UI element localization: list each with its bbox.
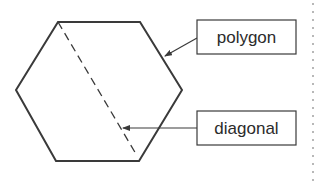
polygon-diagram: polygon diagonal: [0, 0, 315, 186]
polygon-label: polygon: [217, 28, 277, 47]
diagonal-callout: diagonal: [123, 111, 296, 145]
diagonal-label: diagonal: [214, 119, 278, 138]
polygon-arrow: [165, 38, 197, 56]
diagonal-dashed-line: [58, 22, 136, 154]
polygon-callout: polygon: [165, 20, 296, 56]
